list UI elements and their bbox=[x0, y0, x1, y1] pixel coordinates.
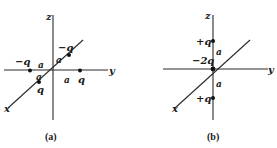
x-axis-label-a: x bbox=[3, 103, 11, 114]
distance-a-right: a bbox=[64, 75, 70, 85]
distance-a-upper: a bbox=[216, 47, 222, 57]
panel-b: z y x +q a −2q +q a (b) bbox=[163, 10, 275, 143]
distance-a-lower: a bbox=[216, 79, 222, 89]
charge-label-pos-q-bottom: +q bbox=[196, 93, 211, 104]
charge-neg-q-left bbox=[28, 69, 32, 73]
charge-neg-2q-origin bbox=[211, 67, 216, 72]
z-axis-label-a: z bbox=[45, 11, 52, 22]
charge-label-q-right: q bbox=[78, 74, 85, 85]
panel-a: z y x −q a q a q a −q a (a) bbox=[3, 11, 116, 143]
distance-a-back: a bbox=[56, 55, 62, 65]
y-axis-label-b: y bbox=[267, 64, 275, 75]
charge-label-q-front: q bbox=[37, 84, 44, 95]
charge-configuration-figure: z y x −q a q a q a −q a (a) z y x +q a bbox=[0, 0, 277, 148]
caption-a: (a) bbox=[45, 131, 57, 143]
distance-a-left: a bbox=[38, 60, 44, 70]
x-axis-label-b: x bbox=[171, 103, 179, 114]
charge-label-neg-q-left: −q bbox=[15, 56, 30, 67]
caption-b: (b) bbox=[207, 131, 219, 143]
charge-label-neg-q-back: −q bbox=[58, 42, 73, 53]
charge-label-pos-q-top: +q bbox=[196, 36, 211, 47]
charge-label-neg-2q: −2q bbox=[192, 55, 214, 66]
distance-a-front: a bbox=[36, 72, 42, 82]
charge-neg-q-back bbox=[67, 53, 71, 57]
charge-q-right bbox=[78, 69, 82, 73]
charge-pos-q-top bbox=[211, 39, 215, 43]
charge-pos-q-bottom bbox=[211, 96, 215, 100]
z-axis-label-b: z bbox=[204, 10, 211, 21]
y-axis-label-a: y bbox=[108, 65, 116, 76]
